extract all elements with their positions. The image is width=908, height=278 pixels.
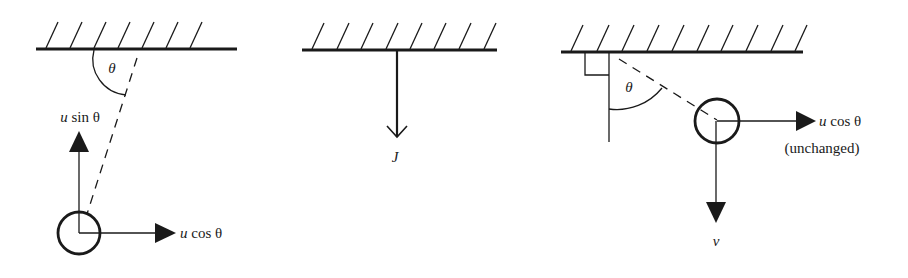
angle-arc <box>609 88 662 110</box>
trajectory-dashed-line <box>619 59 717 120</box>
right-angle-marker <box>585 52 609 75</box>
vertical-component-label: u sin θ <box>60 109 100 125</box>
vertical-velocity-arrow <box>69 131 89 233</box>
wall-1 <box>36 22 237 49</box>
angle-label: θ <box>108 60 116 76</box>
angle-label: θ <box>625 79 633 95</box>
wall-2 <box>302 23 497 50</box>
impulse-arrow <box>387 50 407 137</box>
horizontal-velocity-arrow <box>717 111 816 131</box>
impulse-label: J <box>392 149 400 165</box>
horizontal-component-label: u cos θ <box>180 225 222 241</box>
panel-before-impact: θ u sin θ u cos θ <box>36 22 237 254</box>
vertical-velocity-arrow <box>706 121 726 223</box>
panel-impulse: J <box>302 23 497 165</box>
wall-3 <box>561 25 807 52</box>
collision-diagram: θ u sin θ u cos θ <box>0 0 908 278</box>
trajectory-dashed-line <box>87 58 137 214</box>
horizontal-velocity-arrow <box>79 223 176 243</box>
horizontal-component-label: u cos θ <box>819 113 861 129</box>
panel-after-impact: θ u cos θ (unchanged) v <box>561 25 861 249</box>
rebound-velocity-label: v <box>713 233 720 249</box>
unchanged-note: (unchanged) <box>785 140 860 157</box>
